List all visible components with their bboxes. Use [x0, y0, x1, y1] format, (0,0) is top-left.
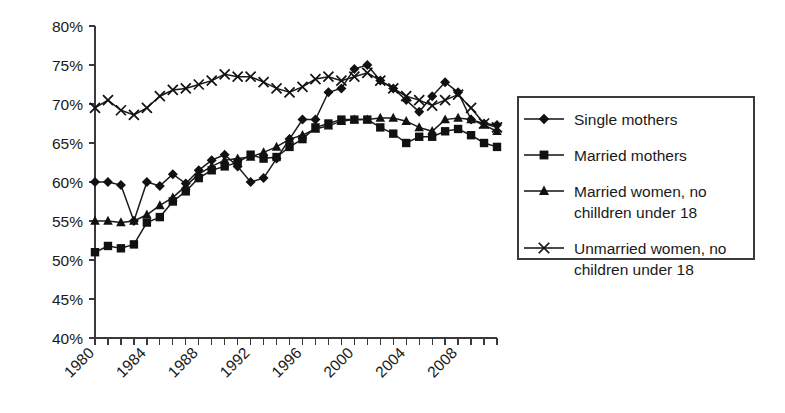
y-axis: 40%45%50%55%60%65%70%75%80%: [52, 18, 95, 347]
data-point-marker: [453, 113, 463, 122]
data-series: [90, 68, 502, 133]
data-point-marker: [155, 91, 165, 101]
data-point-marker: [272, 142, 282, 151]
data-point-marker: [323, 87, 333, 97]
y-axis-tick-label: 40%: [52, 330, 83, 347]
y-axis-tick-label: 45%: [52, 291, 83, 308]
x-axis-tick-label: 1996: [268, 344, 304, 380]
data-point-marker: [142, 177, 152, 187]
data-point-marker: [91, 248, 99, 256]
data-point-marker: [116, 105, 126, 115]
data-point-marker: [272, 83, 282, 93]
data-point-marker: [155, 200, 165, 209]
data-point-marker: [467, 131, 475, 139]
y-axis-tick-label: 70%: [52, 96, 83, 113]
data-point-marker: [454, 125, 462, 133]
data-point-marker: [441, 127, 449, 135]
x-axis-tick-label: 1992: [216, 344, 252, 380]
data-point-marker: [493, 143, 501, 151]
y-axis-tick-label: 60%: [52, 174, 83, 191]
data-point-marker: [156, 213, 164, 221]
legend-entry-label: Married women, no: [574, 183, 707, 200]
data-point-marker: [194, 80, 204, 90]
data-point-marker: [389, 129, 397, 137]
x-axis: 19801984198819921996200020042008: [61, 338, 497, 381]
x-axis-tick-label: 1980: [61, 344, 98, 381]
x-axis-tick-label: 2000: [320, 344, 357, 381]
y-axis-tick-label: 50%: [52, 252, 83, 269]
data-point-marker: [298, 130, 308, 139]
data-point-marker: [376, 123, 384, 131]
data-point-marker: [402, 139, 410, 147]
legend-entry-label: Single mothers: [574, 111, 678, 128]
data-point-marker: [414, 95, 424, 105]
data-point-marker: [285, 143, 293, 151]
y-axis-tick-label: 55%: [52, 213, 83, 230]
y-axis-tick-label: 65%: [52, 135, 83, 152]
y-axis-tick-label: 80%: [52, 18, 83, 35]
data-point-marker: [103, 177, 113, 187]
data-point-marker: [297, 115, 307, 125]
data-point-marker: [104, 242, 112, 250]
data-point-marker: [207, 76, 217, 86]
data-point-marker: [142, 210, 152, 219]
x-axis-tick-label: 1984: [113, 344, 150, 381]
x-axis-tick-label: 1988: [164, 344, 200, 380]
data-point-marker: [285, 87, 295, 97]
data-point-marker: [142, 103, 152, 113]
legend-entry-label: Unmarried women, no: [574, 240, 726, 257]
data-point-marker: [480, 139, 488, 147]
data-point-marker: [117, 244, 125, 252]
data-point-marker: [103, 95, 113, 105]
data-point-marker: [259, 173, 269, 183]
chart-legend: Single mothersMarried mothersMarried wom…: [518, 97, 754, 278]
data-point-marker: [259, 77, 269, 87]
line-chart: 40%45%50%55%60%65%70%75%80% 198019841988…: [0, 0, 785, 413]
legend-entry-label-line2: children under 18: [574, 261, 694, 278]
legend-entry-label: Married mothers: [574, 147, 687, 164]
data-point-marker: [310, 115, 320, 125]
data-point-marker: [129, 110, 139, 120]
legend-entry-label-line2: chilldren under 18: [574, 204, 697, 221]
data-point-marker: [540, 151, 549, 160]
data-point-marker: [272, 153, 280, 161]
data-point-marker: [116, 180, 126, 190]
series-polyline: [95, 118, 497, 223]
data-point-marker: [466, 103, 476, 113]
chart-container: 40%45%50%55%60%65%70%75%80% 198019841988…: [0, 0, 785, 413]
x-axis-tick-label: 2004: [372, 344, 409, 381]
data-point-marker: [440, 95, 450, 105]
data-point-marker: [143, 218, 151, 226]
y-axis-tick-label: 75%: [52, 57, 83, 74]
data-point-marker: [427, 101, 437, 111]
data-series-group: [90, 60, 502, 256]
data-point-marker: [90, 177, 100, 187]
data-point-marker: [130, 240, 138, 248]
data-point-marker: [414, 122, 424, 131]
data-point-marker: [415, 133, 423, 141]
data-point-marker: [297, 82, 307, 92]
x-axis-tick-label: 2008: [424, 344, 460, 380]
